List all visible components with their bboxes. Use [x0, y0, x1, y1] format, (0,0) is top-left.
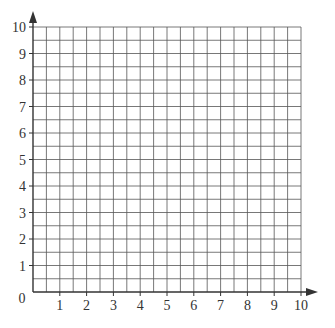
x-tick-label: 6 [190, 298, 197, 313]
gridlines [33, 27, 301, 292]
y-tick-label: 3 [19, 206, 26, 221]
x-tick-label: 5 [164, 298, 171, 313]
y-axis-arrow-icon [29, 11, 37, 23]
y-tick-label: 6 [19, 126, 26, 141]
y-tick-label: 7 [19, 100, 26, 115]
x-tick-label: 9 [271, 298, 278, 313]
y-tick-label: 4 [19, 179, 26, 194]
x-tick-label: 10 [294, 298, 308, 313]
y-tick-label: 8 [19, 73, 26, 88]
x-axis-labels: 12345678910 [56, 292, 308, 313]
origin-label: 0 [19, 291, 26, 306]
y-axis-labels: 12345678910 [12, 20, 33, 274]
x-tick-label: 1 [56, 298, 63, 313]
y-tick-label: 2 [19, 232, 26, 247]
y-tick-label: 5 [19, 153, 26, 168]
x-tick-label: 3 [110, 298, 117, 313]
y-tick-label: 1 [19, 259, 26, 274]
x-axis-arrow-icon [306, 288, 318, 296]
x-tick-label: 8 [244, 298, 251, 313]
coordinate-grid: 12345678910 12345678910 0 [0, 0, 335, 328]
y-tick-label: 9 [19, 47, 26, 62]
x-tick-label: 2 [83, 298, 90, 313]
y-tick-label: 10 [12, 20, 26, 35]
x-tick-label: 7 [217, 298, 224, 313]
x-tick-label: 4 [137, 298, 144, 313]
